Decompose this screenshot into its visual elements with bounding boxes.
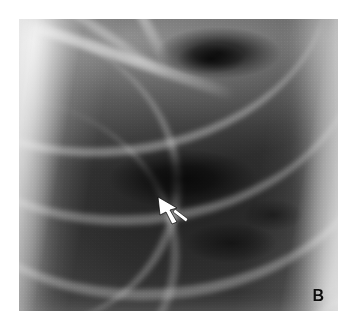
figure-root: B bbox=[0, 0, 348, 322]
rib-arc-5 bbox=[19, 65, 338, 311]
film-base-density bbox=[19, 19, 338, 311]
rib-arc-1 bbox=[19, 19, 338, 178]
panel-label: B bbox=[312, 288, 324, 304]
upper-zone-lucency bbox=[19, 19, 338, 311]
film-grain bbox=[19, 19, 338, 311]
pointer-arrow-icon bbox=[155, 193, 197, 227]
chest-wall-soft-tissue-band bbox=[19, 19, 74, 311]
scapula-border-shadow bbox=[75, 19, 173, 68]
rib-arc-3 bbox=[19, 19, 338, 311]
first-rib-shadow bbox=[19, 19, 174, 82]
film-edge-falloff bbox=[19, 19, 338, 311]
rib-arc-4 bbox=[19, 19, 338, 311]
mediastinal-border-band bbox=[289, 19, 338, 311]
cavitary-lesion bbox=[19, 19, 338, 311]
rib-lateral-arc-1 bbox=[19, 19, 203, 311]
chest-radiograph-image: B bbox=[19, 19, 338, 311]
clavicle-shadow bbox=[19, 19, 236, 100]
lung-apex-haze bbox=[19, 19, 338, 311]
